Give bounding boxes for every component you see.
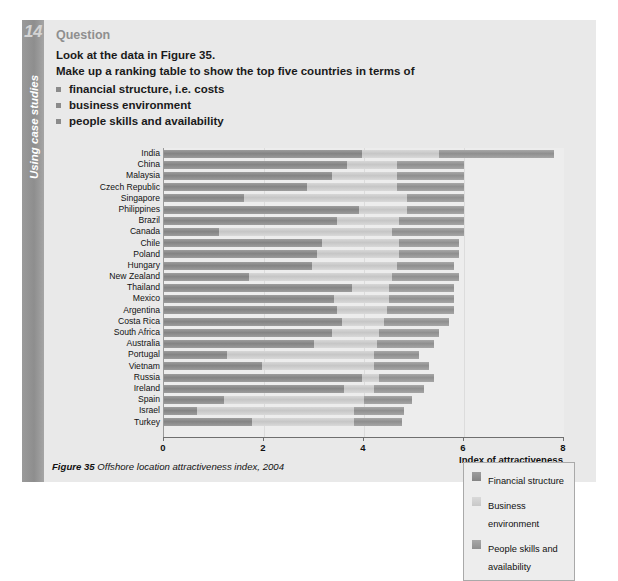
bar-segment-fin — [164, 150, 362, 158]
question-bullet-list: financial structure, i.e. costs business… — [56, 81, 556, 129]
bar-segment-fin — [164, 161, 347, 169]
category-label: China — [52, 159, 160, 170]
bar-segment-fin — [164, 351, 227, 359]
bar-segment-bus — [334, 295, 389, 303]
legend-label: Business environment — [488, 501, 539, 529]
legend-swatch-icon — [472, 472, 481, 481]
bar-segment-bus — [337, 217, 400, 225]
bar-segment-fin — [164, 262, 312, 270]
bar-segment-ppl — [374, 385, 424, 393]
category-label: Chile — [52, 238, 160, 249]
category-label: Spain — [52, 394, 160, 405]
category-label: India — [52, 148, 160, 159]
chapter-number: 14 — [22, 22, 44, 41]
category-axis-labels: IndiaChinaMalaysiaCzech RepublicSingapor… — [52, 148, 160, 428]
bar-segment-bus — [332, 172, 397, 180]
bar-segment-bus — [322, 239, 400, 247]
legend-item-financial-structure: Financial structure — [472, 470, 567, 488]
bar-segment-ppl — [397, 161, 465, 169]
bar-segment-fin — [164, 318, 342, 326]
bar-segment-ppl — [354, 418, 402, 426]
bar-segment-bus — [347, 161, 397, 169]
bar-segment-fin — [164, 306, 337, 314]
bar-segment-ppl — [399, 217, 464, 225]
bullet-text: people skills and availability — [69, 115, 224, 127]
bar-segment-fin — [164, 396, 224, 404]
bar-segment-fin — [164, 273, 249, 281]
bullet-text: business environment — [69, 99, 191, 111]
figure-caption-label: Figure 35 — [52, 461, 95, 472]
bar-segment-ppl — [387, 306, 455, 314]
bar-segment-bus — [307, 183, 397, 191]
category-label: Philippines — [52, 204, 160, 215]
bar-segment-bus — [342, 318, 385, 326]
bar-segment-ppl — [379, 374, 434, 382]
axis-tick — [363, 437, 364, 441]
bar-segment-ppl — [392, 228, 465, 236]
bar-segment-fin — [164, 329, 332, 337]
bar-segment-ppl — [379, 329, 439, 337]
bullet-square-icon — [56, 87, 61, 92]
category-label: Australia — [52, 338, 160, 349]
list-item: people skills and availability — [56, 113, 556, 129]
category-label: Thailand — [52, 282, 160, 293]
legend-swatch-icon — [472, 540, 481, 549]
category-label: Hungary — [52, 260, 160, 271]
bullet-square-icon — [56, 103, 61, 108]
list-item: financial structure, i.e. costs — [56, 81, 556, 97]
chart-legend: Financial structure Business environment… — [463, 462, 575, 581]
axis-tick — [463, 437, 464, 441]
category-label: Singapore — [52, 193, 160, 204]
bar-segment-bus — [337, 306, 387, 314]
category-label: Ireland — [52, 383, 160, 394]
question-block: Question Look at the data in Figure 35. … — [56, 28, 556, 129]
bar-segment-ppl — [377, 340, 435, 348]
category-label: Portugal — [52, 349, 160, 360]
category-label: Canada — [52, 226, 160, 237]
bar-segment-fin — [164, 362, 262, 370]
figure-35-chart: IndiaChinaMalaysiaCzech RepublicSingapor… — [22, 140, 596, 460]
legend-label: Financial structure — [488, 476, 564, 486]
question-heading: Question — [56, 28, 556, 42]
legend-label: People skills and availability — [488, 544, 558, 572]
category-label: Mexico — [52, 293, 160, 304]
bar-segment-fin — [164, 284, 352, 292]
bullet-square-icon — [56, 119, 61, 124]
bullet-text: financial structure, i.e. costs — [69, 83, 224, 95]
bar-segment-ppl — [397, 262, 455, 270]
question-line-2: Make up a ranking table to show the top … — [56, 64, 556, 80]
figure-caption-text: Offshore location attractiveness index, … — [97, 461, 284, 472]
legend-swatch-icon — [472, 497, 481, 506]
plot-area — [163, 148, 564, 437]
bar-segment-ppl — [397, 172, 465, 180]
bar-segment-bus — [262, 362, 375, 370]
bar-segment-fin — [164, 295, 334, 303]
category-label: Brazil — [52, 215, 160, 226]
axis-tick — [163, 437, 164, 441]
bar-segment-ppl — [407, 194, 465, 202]
bar-segment-fin — [164, 340, 314, 348]
bar-segment-bus — [249, 273, 392, 281]
bar-segment-bus — [362, 150, 440, 158]
category-label: New Zealand — [52, 271, 160, 282]
bar-segment-bus — [244, 194, 407, 202]
category-label: Costa Rica — [52, 316, 160, 327]
axis-tick-label: 0 — [160, 442, 165, 453]
bar-segment-ppl — [354, 407, 404, 415]
bar-segment-ppl — [399, 239, 459, 247]
axis-tick-label: 2 — [260, 442, 265, 453]
bar-segment-ppl — [384, 318, 449, 326]
bar-segment-bus — [312, 262, 397, 270]
bar-segment-bus — [252, 418, 355, 426]
bar-segment-fin — [164, 385, 344, 393]
category-label: Israel — [52, 405, 160, 416]
list-item: business environment — [56, 97, 556, 113]
bar-segment-ppl — [389, 284, 454, 292]
category-label: Argentina — [52, 305, 160, 316]
bar-segment-ppl — [389, 295, 454, 303]
bar-segment-fin — [164, 194, 244, 202]
bar-segment-bus — [227, 351, 375, 359]
category-label: Czech Republic — [52, 182, 160, 193]
bar-segment-ppl — [392, 273, 460, 281]
